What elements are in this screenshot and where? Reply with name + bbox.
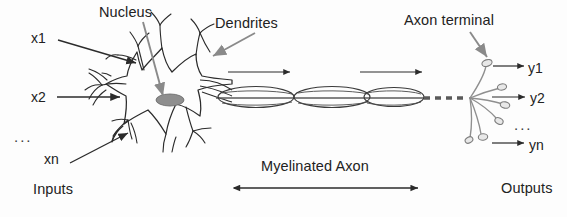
myelin-segment xyxy=(294,87,370,108)
axon-terminal-group xyxy=(464,58,510,144)
inputs-caption: Inputs xyxy=(33,181,73,197)
arrow-dendrites xyxy=(213,33,255,56)
myelin-segment xyxy=(364,88,424,107)
axon-terminal-label: Axon terminal xyxy=(404,12,494,28)
dendrites-label: Dendrites xyxy=(215,15,278,31)
outputs-caption: Outputs xyxy=(501,180,552,196)
output-label-yn: yn xyxy=(529,137,544,153)
output-label-y2: y2 xyxy=(530,90,545,106)
input-label-xn: xn xyxy=(44,151,59,167)
input-label-x1: x1 xyxy=(31,30,46,46)
neuron-diagram-figure: Nucleus Dendrites Axon terminal Myelinat… xyxy=(0,0,567,217)
axon-group xyxy=(200,80,468,108)
arrow-xn xyxy=(70,133,128,163)
neuron-illustration xyxy=(0,0,567,217)
myelin-segment xyxy=(218,87,294,108)
nucleus-label: Nucleus xyxy=(99,4,152,20)
output-ellipsis: ... xyxy=(514,116,533,133)
dendrites-group xyxy=(85,12,214,152)
nucleus-shape xyxy=(156,94,184,106)
arrow-x1 xyxy=(58,40,136,63)
myelinated-axon-label: Myelinated Axon xyxy=(261,158,369,174)
arrow-axon-terminal xyxy=(470,32,487,57)
input-label-x2: x2 xyxy=(31,89,46,105)
output-label-y1: y1 xyxy=(528,60,543,76)
soma-outline xyxy=(106,48,232,134)
soma-group xyxy=(106,48,232,134)
input-ellipsis: ... xyxy=(14,128,33,145)
